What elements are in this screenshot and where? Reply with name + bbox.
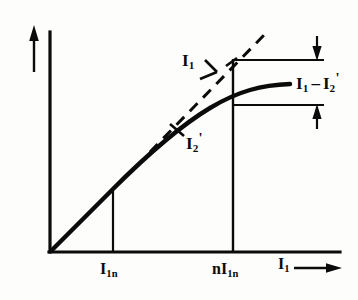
current-difference-label: I1–I2' (296, 71, 339, 95)
diagram-canvas (0, 0, 358, 300)
y-axis-arrow-icon (29, 25, 39, 72)
x-axis-label: I1 (278, 256, 290, 275)
saturation-curve-path (51, 84, 290, 251)
figure-container: I1 I2' I1–I2' I1n nI1n I1 (0, 0, 358, 300)
x-tick-label-i1n: I1n (100, 261, 118, 280)
dimension-arrow-up-icon (312, 104, 321, 129)
curve-label-i1: I1 (182, 52, 194, 72)
x-tick-label-ni1n: nI1n (212, 261, 239, 280)
dimension-arrow-down-icon (312, 36, 321, 61)
x-axis-arrow-icon (294, 263, 342, 273)
leader-line-i1 (200, 60, 217, 79)
curve-label-i2-prime: I2' (186, 131, 202, 155)
